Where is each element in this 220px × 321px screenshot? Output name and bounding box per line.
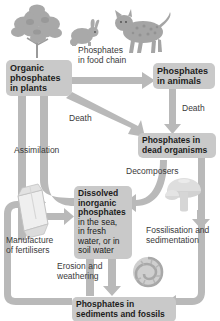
tree-illustration xyxy=(11,5,62,59)
label-manufacture-of-fertilisers: Manufactureof fertilisers xyxy=(6,236,53,256)
node-dissolved-inorganic-phosphates[interactable]: Dissolvedinorganicphosphatesin the sea,i… xyxy=(74,186,132,259)
phosphorus-cycle-diagram: Organicphosphatesin plants Phosphatesin … xyxy=(0,0,220,321)
label-death-animals: Death xyxy=(182,104,205,114)
node-organic-phosphates-in-plants[interactable]: Organicphosphatesin plants xyxy=(6,60,72,96)
label-death-plants: Death xyxy=(69,114,92,124)
node-phosphates-in-sediments-and-fossils[interactable]: Phosphates insediments and fossils xyxy=(72,297,176,321)
mushroom-illustration xyxy=(165,178,201,212)
arrow-animals-to-dead xyxy=(164,84,181,134)
ammonite-fossil-illustration xyxy=(133,257,163,287)
label-phosphates-in-food-chain: Phosphatesin food chain xyxy=(78,46,126,66)
label-assimilation: Assimilation xyxy=(14,146,59,156)
label-erosion-and-weathering: Erosion andweathering xyxy=(57,262,102,282)
rabbit-illustration xyxy=(70,19,99,46)
node-phosphates-in-dead-organisms[interactable]: Phosphates indead organisms xyxy=(138,133,216,158)
label-fossilisation-and-sedimentation: Fossilisation andsedimentation xyxy=(146,226,209,246)
arrow-plants-to-animals xyxy=(64,72,155,89)
label-decomposers: Decomposers xyxy=(126,167,178,177)
node-phosphates-in-animals[interactable]: Phosphatesin animals xyxy=(153,63,215,89)
